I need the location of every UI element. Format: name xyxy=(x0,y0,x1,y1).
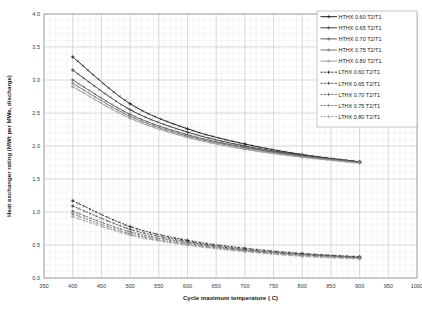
legend-item-label: LTHX 0.65 T2/T1 xyxy=(339,81,381,87)
y-axis-title: Heat exchanger rating (MWt per MWe, disc… xyxy=(5,75,12,217)
x-tick-label: 400 xyxy=(68,283,77,289)
legend-item-label: HTHX 0.80 T2/T1 xyxy=(339,58,382,64)
legend-item-label: LTHX 0.70 T2/T1 xyxy=(339,92,381,98)
x-tick-label: 1000 xyxy=(411,283,422,289)
y-tick-label: 4.0 xyxy=(32,11,40,17)
x-tick-label: 700 xyxy=(240,283,249,289)
x-axis-title: Cycle maximum temperature ( C) xyxy=(183,294,278,301)
chart-canvas: 3504004505005506006507007508008509009501… xyxy=(0,0,422,321)
x-tick-label: 950 xyxy=(384,283,393,289)
x-tick-label: 450 xyxy=(97,283,106,289)
legend-item-label: HTHX 0.65 T2/T1 xyxy=(339,25,382,31)
x-tick-label: 900 xyxy=(355,283,364,289)
x-tick-label: 750 xyxy=(269,283,278,289)
y-tick-label: 1.0 xyxy=(32,209,40,215)
y-tick-label: 0.0 xyxy=(32,275,40,281)
legend: HTHX 0.60 T2/T1HTHX 0.65 T2/T1HTHX 0.70 … xyxy=(317,11,417,127)
y-tick-label: 3.0 xyxy=(32,77,40,83)
legend-item-label: HTHX 0.75 T2/T1 xyxy=(339,47,382,53)
x-tick-label: 650 xyxy=(211,283,220,289)
y-tick-label: 2.5 xyxy=(32,110,40,116)
legend-item-label: LTHX 0.60 T2/T1 xyxy=(339,69,381,75)
legend-item-label: LTHX 0.75 T2/T1 xyxy=(339,103,381,109)
legend-item-label: HTHX 0.60 T2/T1 xyxy=(339,14,382,20)
x-tick-label: 800 xyxy=(298,283,307,289)
x-tick-label: 600 xyxy=(183,283,192,289)
legend-item-label: HTHX 0.70 T2/T1 xyxy=(339,36,382,42)
y-tick-label: 1.5 xyxy=(32,176,40,182)
y-tick-label: 0.5 xyxy=(32,242,40,248)
y-tick-label: 3.5 xyxy=(32,44,40,50)
x-tick-label: 350 xyxy=(39,283,48,289)
x-tick-label: 550 xyxy=(154,283,163,289)
figure-container: 3504004505005506006507007508008509009501… xyxy=(0,0,422,321)
x-tick-label: 500 xyxy=(125,283,134,289)
x-tick-label: 850 xyxy=(326,283,335,289)
legend-item-label: LTHX 0.80 T2/T1 xyxy=(339,114,381,120)
y-tick-label: 2.0 xyxy=(32,143,40,149)
